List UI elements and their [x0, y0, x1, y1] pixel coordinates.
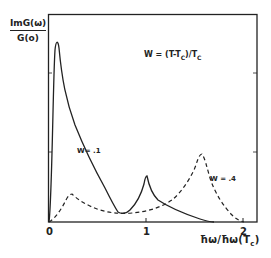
x-axis-label-end: ) [255, 234, 260, 245]
label-w-0.4: W = .4 [210, 175, 236, 183]
plot-frame [49, 15, 258, 223]
x-axis-label-text: ħω/ħω(T [200, 234, 250, 245]
w-def-sub2: C [197, 54, 201, 61]
w-def-part2: )/T [185, 50, 197, 59]
series-w-0.4 [49, 154, 244, 222]
x-tick-label-1: 1 [143, 226, 150, 237]
label-w-0.1: W= .1 [77, 147, 101, 155]
w-definition: W = (T-TC)/TC [144, 50, 202, 61]
plot-area [0, 0, 271, 258]
x-axis-label: ħω/ħω(Tc) [200, 234, 260, 248]
x-tick-label-0: 0 [46, 226, 53, 237]
w-def-part1: W = (T-T [144, 50, 181, 59]
